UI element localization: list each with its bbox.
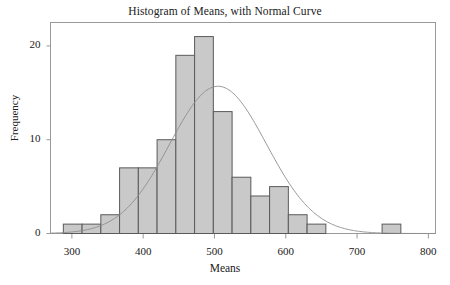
histogram-bar — [307, 224, 326, 233]
histogram-bar — [157, 140, 176, 234]
plot-canvas — [0, 0, 450, 285]
histogram-bar — [288, 215, 307, 234]
histogram-bar — [382, 224, 401, 233]
histogram-bar — [138, 168, 157, 234]
histogram-figure: Histogram of Means, with Normal Curve Fr… — [0, 0, 450, 285]
histogram-bar — [270, 187, 289, 234]
histogram-bar — [232, 177, 251, 233]
histogram-bar — [251, 196, 270, 234]
histogram-bars — [63, 37, 401, 234]
histogram-bar — [120, 168, 139, 234]
histogram-bar — [195, 37, 214, 234]
histogram-bar — [176, 55, 195, 233]
histogram-bar — [213, 112, 232, 234]
